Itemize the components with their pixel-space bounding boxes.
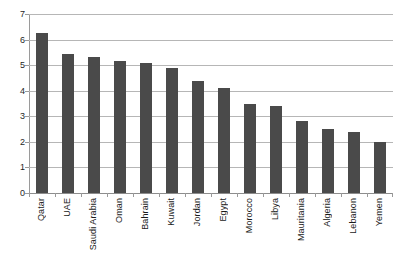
y-axis-tick [25, 193, 29, 194]
x-axis-labels: QatarUAESaudi ArabiaOmanBahrainKuwaitJor… [29, 198, 393, 257]
x-axis-tick [81, 193, 82, 197]
y-axis-tick-label: 5 [3, 61, 25, 70]
x-axis-tick-label: Mauritania [297, 198, 306, 241]
x-axis-tick-label: Bahrain [141, 198, 150, 230]
y-axis-tick [25, 40, 29, 41]
bar [244, 104, 256, 194]
x-axis-tick-label: Yemen [375, 198, 384, 226]
bar [88, 57, 100, 193]
bar [36, 33, 48, 193]
y-axis-tick-label: 1 [3, 163, 25, 172]
x-axis-tick-label: UAE [63, 198, 72, 217]
x-axis-tick-label: Kuwait [167, 198, 176, 226]
y-axis-tick [25, 167, 29, 168]
x-axis-tick [392, 193, 393, 197]
y-axis-tick-label: 3 [3, 112, 25, 121]
x-axis-tick [341, 193, 342, 197]
y-axis-tick [25, 65, 29, 66]
x-axis-tick [237, 193, 238, 197]
y-axis-tick [25, 142, 29, 143]
x-axis-tick [107, 193, 108, 197]
y-axis-tick [25, 91, 29, 92]
y-axis-tick-label: 7 [3, 10, 25, 19]
chart-title [8, 0, 388, 3]
y-axis-labels: 01234567 [0, 0, 25, 257]
x-axis-tick-label: Algeria [323, 198, 332, 227]
y-axis-tick [25, 14, 29, 15]
x-axis-tick-label: Oman [115, 198, 124, 223]
x-axis-tick-label: Saudi Arabia [89, 198, 98, 250]
y-axis-tick-label: 2 [3, 137, 25, 146]
x-axis-tick [159, 193, 160, 197]
bar [218, 88, 230, 193]
x-axis-tick [367, 193, 368, 197]
x-axis-tick-label: Egypt [219, 198, 228, 222]
x-axis-tick-label: Qatar [37, 198, 46, 221]
bar [166, 68, 178, 193]
bar [322, 129, 334, 193]
x-axis-tick-label: Lebanon [349, 198, 358, 234]
y-axis-tick-label: 0 [3, 189, 25, 198]
plot-area [29, 14, 393, 193]
y-axis-tick [25, 116, 29, 117]
x-axis-tick [289, 193, 290, 197]
bar [270, 106, 282, 193]
bar [192, 81, 204, 194]
x-axis-tick [263, 193, 264, 197]
x-axis-tick-label: Libya [271, 198, 280, 220]
x-axis-tick [133, 193, 134, 197]
x-axis-tick [185, 193, 186, 197]
bar [62, 54, 74, 193]
x-axis-tick [315, 193, 316, 197]
bar [114, 61, 126, 193]
y-axis-tick-label: 4 [3, 86, 25, 95]
bar-chart: 01234567 QatarUAESaudi ArabiaOmanBahrain… [0, 0, 395, 257]
bar-series [29, 14, 393, 193]
bar [374, 142, 386, 193]
x-axis-tick [29, 193, 30, 197]
bar [140, 63, 152, 193]
x-axis-tick-label: Jordan [193, 198, 202, 226]
bar [348, 132, 360, 193]
x-axis-tick-label: Morocco [245, 198, 254, 233]
bar [296, 121, 308, 193]
x-axis-tick [55, 193, 56, 197]
x-axis-tick [211, 193, 212, 197]
y-axis-tick-label: 6 [3, 35, 25, 44]
